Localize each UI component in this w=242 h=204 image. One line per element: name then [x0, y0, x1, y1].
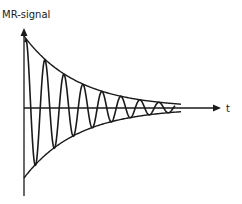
y-axis-arrow-icon: [21, 28, 28, 36]
x-axis-arrow-icon: [213, 105, 221, 112]
mr-signal-diagram: MR-signal t: [0, 0, 242, 204]
x-axis-label: t: [226, 103, 230, 114]
lower-envelope: [24, 112, 181, 178]
y-axis-label: MR-signal: [2, 9, 50, 20]
damped-oscillation: [25, 40, 175, 166]
